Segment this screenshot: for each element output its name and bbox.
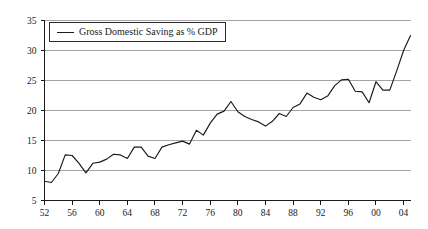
legend-label: Gross Domestic Saving as % GDP bbox=[79, 27, 218, 37]
data-series-line bbox=[45, 36, 411, 183]
legend-line-swatch-icon bbox=[57, 32, 74, 33]
y-tick-label: 35 bbox=[27, 16, 37, 26]
y-tick-label: 30 bbox=[27, 46, 37, 56]
x-tick-label: 76 bbox=[205, 208, 215, 218]
x-tick-label: 92 bbox=[316, 208, 326, 218]
y-tick-label: 15 bbox=[27, 136, 37, 146]
x-tick-label: 64 bbox=[123, 208, 133, 218]
x-tick-label: 00 bbox=[371, 208, 381, 218]
x-tick-label: 80 bbox=[233, 208, 243, 218]
x-tick-label: 72 bbox=[178, 208, 188, 218]
chart-container: 5101520253035525660646872768084889296000… bbox=[0, 0, 428, 229]
x-tick-label: 56 bbox=[67, 208, 77, 218]
x-tick-label: 84 bbox=[261, 208, 271, 218]
x-tick-label: 88 bbox=[288, 208, 298, 218]
y-tick-label: 25 bbox=[27, 76, 37, 86]
x-tick-label: 68 bbox=[150, 208, 160, 218]
chart-legend: Gross Domestic Saving as % GDP bbox=[49, 22, 226, 42]
x-tick-label: 60 bbox=[95, 208, 105, 218]
y-tick-label: 20 bbox=[27, 106, 37, 116]
x-tick-label: 04 bbox=[399, 208, 409, 218]
x-tick-label: 52 bbox=[40, 208, 50, 218]
y-tick-label: 10 bbox=[27, 166, 37, 176]
y-tick-label: 5 bbox=[32, 196, 37, 206]
x-tick-label: 96 bbox=[344, 208, 354, 218]
